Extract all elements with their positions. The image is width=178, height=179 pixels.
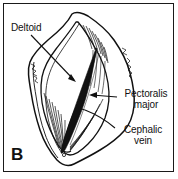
label-deltoid: Deltoid	[11, 22, 41, 33]
label-pectoralis-major-line2: major	[118, 99, 174, 110]
panel-label: B	[11, 145, 23, 164]
label-cephalic-vein-line2: vein	[115, 135, 171, 146]
label-cephalic-vein: Cephalic vein	[115, 124, 171, 146]
label-pectoralis-major: Pectoralis major	[118, 88, 174, 110]
label-cephalic-vein-line1: Cephalic	[115, 124, 171, 135]
figure-panel-b: Deltoid Pectoralis major Cephalic vein B	[0, 0, 178, 179]
label-pectoralis-major-line1: Pectoralis	[118, 88, 174, 99]
